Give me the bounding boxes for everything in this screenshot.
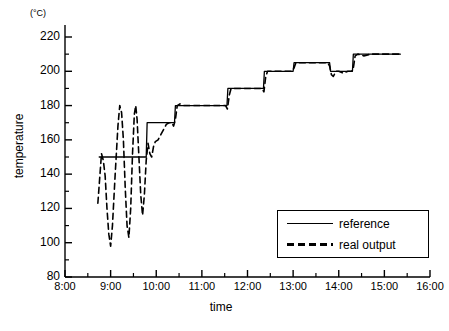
x-tick-label: 12:00	[226, 280, 270, 292]
y-axis-unit-label: (°C)	[30, 8, 46, 18]
legend-entry-reference: reference	[278, 213, 430, 234]
y-tick-label: 120	[26, 200, 60, 214]
y-tick-label: 100	[26, 235, 60, 249]
x-tick-label: 13:00	[271, 280, 315, 292]
x-tick-label: 8:00	[43, 280, 87, 292]
legend-entry-real-output: real output	[278, 234, 430, 255]
legend-swatch-dashed-icon	[287, 239, 333, 251]
series-reference	[99, 54, 400, 157]
x-tick-label: 14:00	[317, 280, 361, 292]
y-tick-label: 220	[26, 29, 60, 43]
chart-legend: reference real output	[277, 210, 429, 258]
legend-label-reference: reference	[339, 217, 390, 231]
x-axis-title: time	[0, 300, 442, 314]
legend-label-real-output: real output	[339, 238, 396, 252]
y-tick-label: 180	[26, 98, 60, 112]
legend-swatch-solid-icon	[287, 218, 333, 230]
y-tick-label: 160	[26, 132, 60, 146]
x-tick-label: 11:00	[180, 280, 224, 292]
y-tick-label: 200	[26, 63, 60, 77]
y-tick-label: 140	[26, 166, 60, 180]
x-tick-label: 16:00	[408, 280, 449, 292]
x-tick-label: 15:00	[362, 280, 406, 292]
y-axis-title: temperature	[12, 91, 26, 201]
x-tick-label: 9:00	[89, 280, 133, 292]
x-tick-label: 10:00	[134, 280, 178, 292]
